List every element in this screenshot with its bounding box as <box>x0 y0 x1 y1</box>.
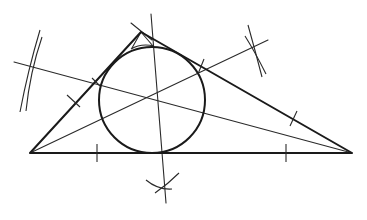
incircle-construction-svg <box>0 0 367 220</box>
right-arc-1 <box>248 25 262 77</box>
angle-bisector-a <box>30 40 268 153</box>
angle-bisector-b <box>14 62 352 153</box>
incircle <box>99 47 205 153</box>
diagram-canvas <box>0 0 367 220</box>
left-arc-1 <box>20 30 40 112</box>
bottom-arc-2 <box>155 173 179 193</box>
right-arc-2 <box>245 36 266 74</box>
bottom-arc-1 <box>146 180 172 189</box>
